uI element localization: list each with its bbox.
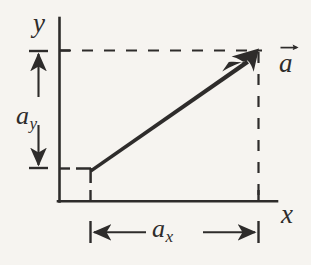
component-ax-label: ax — [152, 216, 173, 245]
component-ay-base: a — [16, 101, 29, 130]
vector-arrow-accent-icon — [280, 41, 299, 50]
vector-a-label-wrap: a — [279, 50, 293, 77]
component-ax-subscript: x — [165, 227, 173, 246]
component-ay-label: ay — [16, 103, 37, 132]
y-axis-label: y — [33, 10, 45, 37]
vector-a-label: a — [279, 50, 293, 77]
component-ay-subscript: y — [29, 114, 37, 133]
dimension-arrow-ax — [91, 221, 259, 243]
x-axis-label: x — [281, 201, 293, 228]
vector-a-shaft — [90, 60, 249, 173]
vector-tail-tick-icon — [76, 168, 91, 183]
component-ax-base: a — [152, 214, 165, 243]
vector-components-figure: y x ay ax a — [0, 0, 311, 265]
vector-a-group — [76, 49, 259, 183]
vector-a-label-base: a — [279, 48, 293, 78]
